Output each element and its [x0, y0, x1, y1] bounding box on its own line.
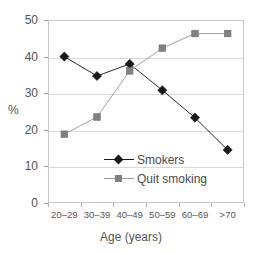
data-point-square-marker-icon: [159, 45, 166, 52]
legend-item-smokers: Smokers: [104, 150, 208, 169]
data-series-layer: [0, 0, 262, 254]
legend-item-label: Smokers: [137, 153, 184, 167]
legend-item-label: Quit smoking: [137, 172, 207, 186]
data-point-square-marker-icon: [192, 30, 199, 37]
square-marker-icon: [104, 173, 134, 185]
chart-legend: Smokers Quit smoking: [104, 150, 208, 188]
data-point-diamond-marker-icon: [92, 71, 101, 80]
data-point-square-marker-icon: [224, 30, 231, 37]
data-point-square-marker-icon: [126, 68, 133, 75]
data-point-diamond-marker-icon: [60, 52, 69, 61]
series-smokers: [60, 52, 233, 155]
data-point-square-marker-icon: [61, 131, 68, 138]
series-quit-smoking: [61, 30, 231, 137]
diamond-marker-icon: [104, 154, 134, 166]
line-chart: 01020304050 % 20–2930–3940–4950–5960–69>…: [0, 0, 262, 254]
data-point-square-marker-icon: [94, 114, 101, 121]
legend-item-quit-smoking: Quit smoking: [104, 169, 208, 188]
